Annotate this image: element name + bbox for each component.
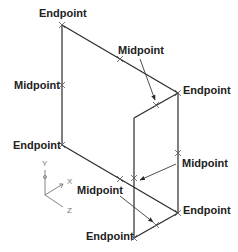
label-midpoint-center: Midpoint	[77, 184, 123, 196]
label-endpoint-right-top: Endpoint	[183, 84, 231, 96]
leaders	[120, 59, 176, 222]
ucs-z-axis	[45, 195, 63, 207]
ucs-y-label: Y	[42, 159, 48, 168]
snap-points-diagram: Endpoint Midpoint Midpoint Endpoint Endp…	[0, 0, 238, 252]
ucs-z-label: Z	[67, 206, 72, 215]
label-midpoint-left: Midpoint	[14, 79, 60, 91]
leader-center-midpoint	[120, 196, 153, 222]
ucs-x-axis	[45, 184, 63, 195]
ucs-axis-icon: Y X Z	[42, 159, 73, 215]
leader-right-midpoint	[140, 164, 176, 180]
label-endpoint-bottom: Endpoint	[86, 230, 134, 242]
snap-marker-lower-short-midpoint	[153, 222, 159, 228]
labels: Endpoint Midpoint Midpoint Endpoint Endp…	[13, 7, 231, 242]
geometry	[62, 25, 178, 238]
label-endpoint-top: Endpoint	[39, 7, 87, 19]
snap-marker-upper-short-midpoint	[153, 102, 159, 108]
snap-marker-long-diag-midpoint	[117, 176, 123, 182]
leader-top-midpoint	[140, 59, 155, 100]
ucs-x-label: X	[67, 177, 73, 186]
snap-marker-top-diag-midpoint	[117, 56, 123, 62]
label-midpoint-top-diag: Midpoint	[118, 44, 164, 56]
label-midpoint-right: Midpoint	[182, 157, 228, 169]
label-endpoint-right-bottom: Endpoint	[183, 204, 231, 216]
label-endpoint-left-bottom: Endpoint	[13, 139, 61, 151]
